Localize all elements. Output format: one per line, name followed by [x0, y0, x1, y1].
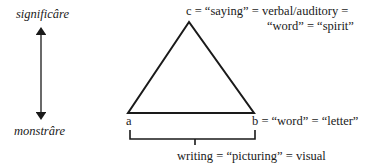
label-vertex-c: c = “saying” = verbal/auditory =	[186, 4, 348, 18]
label-vertex-a: a	[126, 114, 132, 128]
label-vertex-c-line2: “word” = “spirit”	[267, 19, 354, 33]
label-significare: significâre	[16, 7, 69, 21]
bracket	[130, 130, 255, 145]
label-vertex-b: b = “word” = “letter”	[252, 114, 358, 128]
label-writing: writing = “picturing” = visual	[177, 149, 326, 163]
label-monstrare: monstrâre	[14, 124, 65, 138]
triangle	[128, 22, 254, 113]
